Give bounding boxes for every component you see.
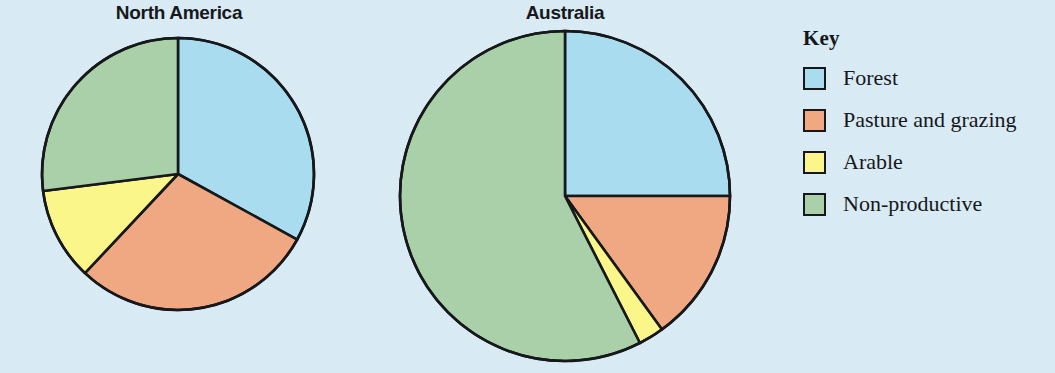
legend-item-label: Pasture and grazing: [843, 109, 1017, 131]
legend-item-label: Non-productive: [843, 193, 982, 215]
legend-item: Pasture and grazing: [789, 99, 1051, 141]
pie-slice-forest[interactable]: [565, 31, 730, 196]
legend-swatch-pasture: [803, 109, 826, 132]
legend-item: Arable: [789, 141, 1051, 183]
legend-item-label: Arable: [843, 151, 903, 173]
pie-chart-north-america: North America: [14, 0, 344, 373]
legend-items: ForestPasture and grazingArableNon-produ…: [789, 57, 1051, 225]
pie-svg-australia: [397, 28, 733, 364]
pie-title-australia: Australia: [385, 2, 745, 24]
legend-swatch-arable: [803, 151, 826, 174]
legend-item: Forest: [789, 57, 1051, 99]
legend-title: Key: [803, 26, 1051, 51]
legend-item-label: Forest: [843, 67, 898, 89]
legend-item: Non-productive: [789, 183, 1051, 225]
pie-slice-non-productive[interactable]: [42, 38, 178, 191]
legend-swatch-nonproductive: [803, 193, 826, 216]
pie-svg-north-america: [38, 34, 318, 314]
pie-title-north-america: North America: [14, 2, 344, 24]
legend-swatch-forest: [803, 67, 826, 90]
pie-chart-australia: Australia: [385, 0, 745, 373]
legend: Key ForestPasture and grazingArableNon-p…: [789, 26, 1051, 225]
chart-page: North America Australia Key ForestPastur…: [0, 0, 1055, 373]
